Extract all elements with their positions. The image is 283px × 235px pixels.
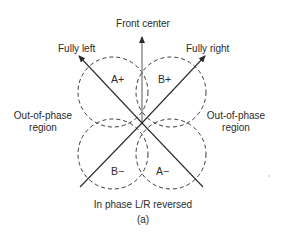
artifact-dot (268, 175, 270, 177)
out-of-phase-left-line2: region (10, 122, 76, 134)
out-of-phase-right-line1: Out-of-phase (203, 110, 269, 122)
out-of-phase-left-line1: Out-of-phase (10, 110, 76, 122)
fully-right-label: Fully right (186, 43, 229, 55)
out-of-phase-right-line2: region (203, 122, 269, 134)
region-b-plus: B+ (158, 73, 171, 85)
lower-left-line (80, 123, 142, 187)
region-a-plus: A+ (111, 73, 124, 85)
region-a-minus: A− (156, 165, 169, 177)
stereo-phase-diagram: Front center Fully left Fully right A+ B… (0, 0, 283, 235)
lower-right-line (142, 123, 203, 187)
fully-left-arrow (79, 56, 142, 123)
out-of-phase-right-label: Out-of-phase region (203, 110, 269, 134)
region-b-minus: B− (111, 165, 124, 177)
fully-left-label: Fully left (58, 43, 95, 55)
out-of-phase-left-label: Out-of-phase region (10, 110, 76, 134)
caption: (a) (128, 214, 158, 226)
bottom-label: In phase L/R reversed (87, 199, 199, 211)
front-center-label: Front center (112, 18, 174, 30)
fully-right-arrow (142, 56, 205, 123)
